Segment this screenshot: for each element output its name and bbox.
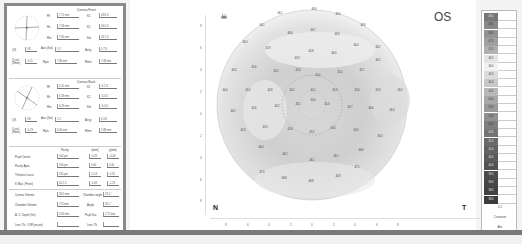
map-value: 46.0	[368, 107, 373, 110]
map-value: 45.5	[309, 131, 314, 134]
map-value: 45.6	[251, 107, 256, 110]
map-value: 46.3	[231, 69, 236, 72]
scale-step: 46.0	[484, 63, 498, 71]
scale-step: 43.0	[484, 113, 498, 121]
scale-step-tick	[498, 129, 516, 137]
scale-step-tick	[498, 171, 516, 179]
map-value: 45.4	[315, 74, 320, 77]
map-value: 46.3	[334, 33, 339, 36]
map-value: 46.6	[358, 149, 363, 152]
curvature-map-area[interactable]: 8 6 4 2 0 2 4 6 8 8 6 4 2 0 2 4 6 8 46.1…	[130, 0, 476, 230]
map-value: 46.1	[375, 59, 380, 62]
map-value: 46.4	[397, 89, 402, 92]
scale-step-size[interactable]: 0.5	[482, 205, 518, 209]
scale-step-tick	[498, 162, 516, 170]
map-value: 45.1	[295, 103, 300, 106]
map-value: 45.3	[332, 89, 337, 92]
nasal-label: N	[213, 204, 218, 211]
scale-step-tick	[498, 146, 516, 154]
map-value: 46.5	[377, 135, 382, 138]
map-value: 45.9	[262, 126, 267, 129]
map-value: 46.1	[277, 12, 282, 15]
map-value: 46.0	[331, 52, 336, 55]
scale-step-tick	[498, 38, 516, 46]
map-value: 46.0	[242, 41, 247, 44]
scale-step: 39.5	[484, 171, 498, 179]
scale-step-tick	[498, 196, 516, 204]
scale-step-tick	[498, 13, 516, 21]
map-value: 46.6	[287, 32, 292, 35]
scale-step: 48.0	[484, 30, 498, 38]
map-value: 46.5	[259, 24, 264, 27]
temporal-label: T	[462, 204, 466, 211]
scale-step: 43.5	[484, 104, 498, 112]
scale-step: 41.0	[484, 146, 498, 154]
map-values-layer: 46.146.946.446.546.646.746.346.846.045.9…	[0, 0, 476, 230]
scale-step: 45.5	[484, 71, 498, 79]
map-value: 45.4	[245, 89, 250, 92]
scale-step-tick	[498, 79, 516, 87]
scale-step: 47.5	[484, 38, 498, 46]
map-value: 45.0	[310, 99, 315, 102]
map-value: 47.0	[259, 171, 264, 174]
map-value: 46.9	[335, 175, 340, 178]
map-value: 45.3	[324, 103, 329, 106]
map-value: 45.6	[354, 89, 359, 92]
scale-step: 41.5	[484, 138, 498, 146]
scale-step: 42.0	[484, 129, 498, 137]
scale-step-tick	[498, 121, 516, 129]
map-value: 45.7	[359, 69, 364, 72]
scale-step: 47.0	[484, 46, 498, 54]
scale-step-tick	[498, 104, 516, 112]
eye-label: OS	[434, 10, 451, 24]
scale-step-tick	[498, 154, 516, 162]
bottom-area	[0, 235, 522, 244]
scale-step-tick	[498, 46, 516, 54]
scale-step: 39.0	[484, 179, 498, 187]
map-value: 45.6	[330, 127, 335, 130]
map-value: 46.4	[258, 146, 263, 149]
scale-step: 44.0	[484, 96, 498, 104]
map-value: 46.8	[360, 24, 365, 27]
scale-step-tick	[498, 71, 516, 79]
color-scale[interactable]: 0.5 Curvature Abs 49.048.548.047.547.046…	[481, 10, 517, 232]
map-value: 47.1	[354, 166, 359, 169]
scale-step-tick	[498, 138, 516, 146]
scale-step: 45.0	[484, 79, 498, 87]
map-value: 46.2	[282, 153, 287, 156]
scale-step-tick	[498, 88, 516, 96]
map-value: 46.4	[222, 89, 227, 92]
scale-step-tick	[498, 187, 516, 195]
scale-step-tick	[498, 113, 516, 121]
map-value: 46.3	[240, 129, 245, 132]
map-value: 45.7	[347, 106, 352, 109]
scale-step-tick	[498, 96, 516, 104]
scale-step-tick	[498, 179, 516, 187]
scale-step-tick	[498, 55, 516, 63]
map-value: 46.8	[281, 177, 286, 180]
scale-step: 38.0	[484, 196, 498, 204]
map-value: 44.9	[267, 89, 272, 92]
map-value: 45.1	[310, 89, 315, 92]
map-value: 45.6	[287, 128, 292, 131]
scale-step: 48.5	[484, 21, 498, 29]
scale-step-tick	[498, 63, 516, 71]
scale-step: 40.5	[484, 154, 498, 162]
map-value: 45.6	[251, 66, 256, 69]
scale-step-tick	[498, 30, 516, 38]
map-value: 45.2	[289, 89, 294, 92]
scale-mode[interactable]: Curvature	[482, 215, 518, 219]
map-value: 46.1	[309, 159, 314, 162]
map-value: 46.9	[311, 8, 316, 11]
map-value: 45.3	[295, 69, 300, 72]
scale-step: 40.0	[484, 162, 498, 170]
map-value: 46.2	[375, 46, 380, 49]
map-value: 46.2	[230, 110, 235, 113]
scale-step-tick	[498, 21, 516, 29]
map-value: 45.9	[353, 129, 358, 132]
scale-step: 38.5	[484, 187, 498, 195]
map-value: 45.8	[308, 50, 313, 53]
scale-abs[interactable]: Abs	[482, 225, 518, 229]
map-value: 45.9	[294, 57, 299, 60]
scale-step: 49.0	[484, 13, 498, 21]
